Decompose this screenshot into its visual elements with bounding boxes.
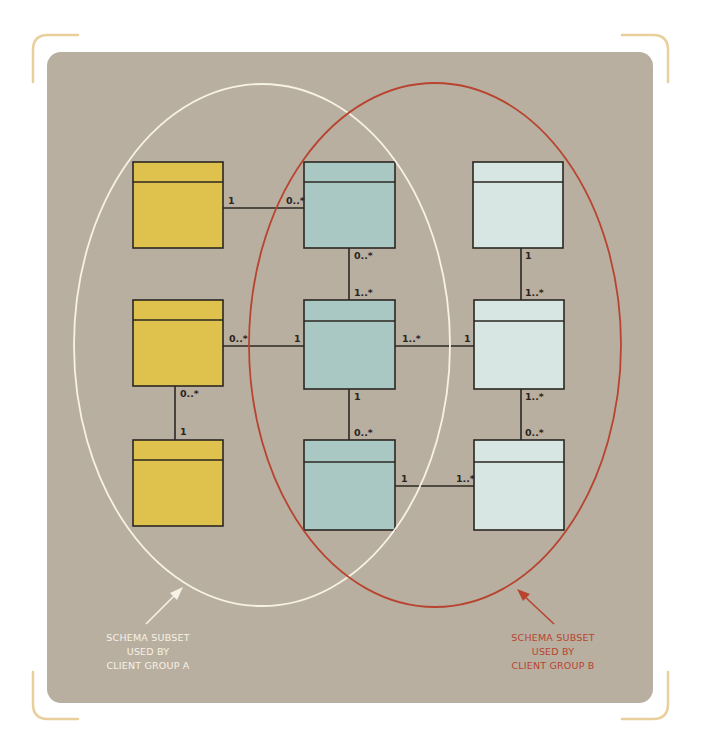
group-b-caption-line-3: CLIENT GROUP B bbox=[511, 660, 594, 671]
entity-s2[interactable] bbox=[304, 300, 395, 389]
entity-a2[interactable] bbox=[133, 300, 223, 386]
group-a-caption-line-2: USED BY bbox=[127, 646, 170, 657]
mult-s1-s2-top: 0..* bbox=[354, 250, 373, 261]
mult-a2-a3-bottom: 1 bbox=[180, 426, 187, 437]
group-b-caption-line-2: USED BY bbox=[532, 646, 575, 657]
mult-a1-s1-left: 1 bbox=[228, 195, 235, 206]
entity-a3[interactable] bbox=[133, 440, 223, 526]
mult-b2-b3-bottom: 0..* bbox=[525, 427, 544, 438]
mult-b1-b2-top: 1 bbox=[525, 250, 532, 261]
entity-b3[interactable] bbox=[474, 440, 564, 530]
mult-s2-b2-left: 1..* bbox=[402, 333, 421, 344]
schema-subset-diagram: 1 0..* 0..* 1..* 0..* 1 0..* 1 1..* 1 1 … bbox=[0, 0, 703, 740]
mult-s2-b2-right: 1 bbox=[464, 333, 471, 344]
mult-a1-s1-right: 0..* bbox=[286, 195, 305, 206]
group-a-caption-line-1: SCHEMA SUBSET bbox=[106, 632, 189, 643]
mult-b1-b2-bottom: 1..* bbox=[525, 287, 544, 298]
group-a-caption-line-3: CLIENT GROUP A bbox=[106, 660, 189, 671]
mult-a2-s2-left: 0..* bbox=[229, 333, 248, 344]
entity-b2[interactable] bbox=[474, 300, 564, 389]
group-b-caption-line-1: SCHEMA SUBSET bbox=[511, 632, 594, 643]
mult-s3-b3-left: 1 bbox=[401, 473, 408, 484]
entity-a1[interactable] bbox=[133, 162, 223, 248]
mult-s2-s3-bottom: 0..* bbox=[354, 427, 373, 438]
mult-b2-b3-top: 1..* bbox=[525, 391, 544, 402]
entity-s1[interactable] bbox=[304, 162, 395, 248]
entity-s3[interactable] bbox=[304, 440, 395, 530]
entity-b1[interactable] bbox=[473, 162, 563, 248]
mult-s1-s2-bottom: 1..* bbox=[354, 287, 373, 298]
mult-s3-b3-right: 1..* bbox=[456, 473, 475, 484]
mult-s2-s3-top: 1 bbox=[354, 391, 361, 402]
mult-a2-s2-right: 1 bbox=[294, 333, 301, 344]
mult-a2-a3-top: 0..* bbox=[180, 388, 199, 399]
